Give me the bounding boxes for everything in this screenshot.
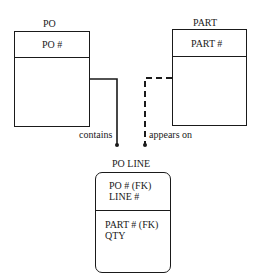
po-line-key-line-number: LINE # [109, 191, 139, 202]
part-key-area: PART # [173, 30, 246, 57]
po-entity-name: PO [43, 18, 56, 29]
appears-on-many-dot [143, 143, 147, 147]
po-entity: PO # [14, 31, 90, 127]
er-diagram: PO PO # PART PART # contains appears on … [0, 0, 260, 276]
part-key-part-number: PART # [191, 38, 222, 49]
po-line-attr-qty: QTY [105, 230, 126, 241]
appears-on-label: appears on [149, 129, 192, 140]
contains-label: contains [79, 129, 112, 140]
po-line-entity-name: PO LINE [112, 158, 150, 169]
contains-many-dot [115, 143, 119, 147]
po-line-entity: PO # (FK) LINE # PART # (FK) QTY [95, 172, 171, 273]
po-line-key-po-number-fk: PO # (FK) [109, 180, 151, 191]
part-entity: PART # [172, 29, 247, 126]
part-entity-name: PART [193, 17, 217, 28]
po-line-attr-part-number-fk: PART # (FK) [105, 219, 158, 230]
po-line-key-area: PO # (FK) LINE # [96, 173, 170, 211]
po-key-po-number: PO # [42, 39, 62, 50]
po-key-area: PO # [15, 32, 89, 58]
